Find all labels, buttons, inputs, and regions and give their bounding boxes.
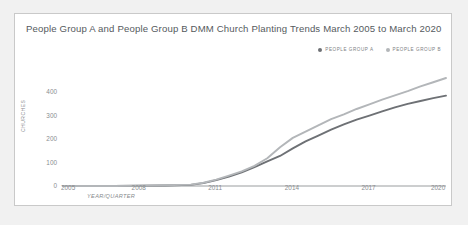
y-axis-title: CHURCHES	[20, 100, 26, 132]
chart-card: People Group A and People Group B DMM Ch…	[14, 13, 452, 206]
y-axis-tick: 100	[25, 159, 57, 166]
x-axis-tick: 2017	[361, 184, 375, 191]
line-chart-canvas	[15, 14, 453, 207]
series-line	[63, 96, 446, 186]
x-axis-tick: 2005	[61, 184, 75, 191]
series-line	[63, 78, 446, 186]
x-axis-tick: 2011	[208, 184, 222, 191]
y-axis-tick: 0	[25, 182, 57, 189]
x-axis-tick: 2008	[132, 184, 146, 191]
x-axis-tick: 2020	[431, 184, 445, 191]
x-axis-tick: 2014	[285, 184, 299, 191]
y-axis-tick: 300	[25, 112, 57, 119]
y-axis-tick: 200	[25, 135, 57, 142]
x-axis-title: YEAR/QUARTER	[87, 193, 135, 199]
y-axis-tick: 400	[25, 88, 57, 95]
plot-area: 0100200300400 200520082011201420172020	[15, 14, 453, 207]
